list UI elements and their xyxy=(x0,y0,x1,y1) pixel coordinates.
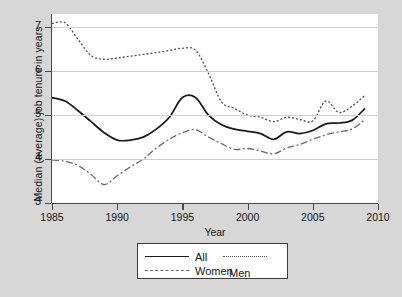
x-tick-label-2000: 2000 xyxy=(226,211,270,223)
plot-area xyxy=(52,14,378,203)
x-tick-label-1990: 1990 xyxy=(95,211,139,223)
gridline-y-4 xyxy=(52,159,378,160)
x-tick-2000 xyxy=(248,204,249,210)
series-canvas xyxy=(52,14,378,203)
legend-swatch-men xyxy=(223,252,267,262)
x-axis-line xyxy=(52,203,378,204)
legend-label-women: Women xyxy=(189,263,233,279)
y-tick-6 xyxy=(45,71,51,72)
x-tick-label-2005: 2005 xyxy=(291,211,335,223)
legend-swatch-all xyxy=(145,252,189,262)
x-tick-label-1995: 1995 xyxy=(160,211,204,223)
y-tick-label-5: 5 xyxy=(20,107,41,119)
y-axis-line xyxy=(51,14,52,203)
x-tick-2010 xyxy=(378,204,379,210)
x-tick-1990 xyxy=(117,204,118,210)
y-tick-label-3: 3 xyxy=(20,195,41,207)
gridline-y-5 xyxy=(52,115,378,116)
y-tick-4 xyxy=(45,159,51,160)
y-tick-7 xyxy=(45,27,51,28)
series-line-all xyxy=(52,95,365,141)
y-tick-3 xyxy=(45,203,51,204)
gridline-y-6 xyxy=(52,71,378,72)
x-tick-1985 xyxy=(52,204,53,210)
y-tick-5 xyxy=(45,115,51,116)
gridline-y-7 xyxy=(52,27,378,28)
x-tick-label-2010: 2010 xyxy=(356,211,400,223)
chart-figure: Median (average) job tenure in years 345… xyxy=(0,0,402,297)
x-tick-2005 xyxy=(313,204,314,210)
x-axis-title: Year xyxy=(52,226,378,238)
legend-swatch-women xyxy=(145,266,189,276)
x-tick-label-1985: 1985 xyxy=(30,211,74,223)
x-tick-1995 xyxy=(182,204,183,210)
y-tick-label-7: 7 xyxy=(20,19,41,31)
legend-item-women: Women xyxy=(145,262,233,278)
y-tick-label-4: 4 xyxy=(20,151,41,163)
chart-legend: All Men Women xyxy=(137,243,288,279)
y-tick-label-6: 6 xyxy=(20,63,41,75)
